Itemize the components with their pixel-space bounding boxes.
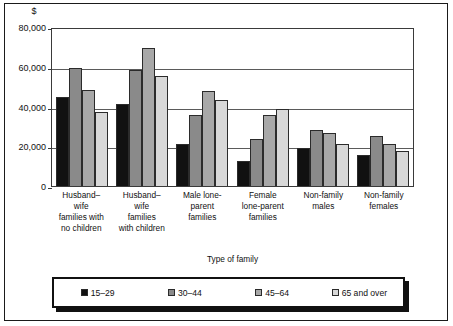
- bar[interactable]: [215, 100, 228, 186]
- bar-group: [233, 29, 293, 186]
- category-label-line: no children: [52, 223, 111, 234]
- legend-swatch-icon: [81, 289, 88, 296]
- x-axis-category-label: Husband–wifefamilies withno children: [51, 190, 112, 234]
- x-axis-category-label: Non-familymales: [293, 190, 354, 234]
- bar-group: [353, 29, 413, 186]
- legend-swatch-icon: [255, 289, 262, 296]
- legend-item[interactable]: 15–29: [54, 288, 141, 298]
- category-label-line: families: [173, 212, 232, 223]
- category-label-line: females: [355, 201, 414, 212]
- bar[interactable]: [263, 115, 276, 186]
- category-label-line: wife: [52, 201, 111, 212]
- bar[interactable]: [357, 155, 370, 186]
- legend-item[interactable]: 45–64: [229, 288, 316, 298]
- category-label-line: families: [234, 212, 293, 223]
- bar[interactable]: [383, 144, 396, 186]
- legend-swatch-icon: [168, 289, 175, 296]
- bar[interactable]: [142, 48, 155, 186]
- x-axis-category-label: Non-familyfemales: [354, 190, 415, 234]
- category-label-line: families with: [52, 212, 111, 223]
- y-axis-tick-label: 80,000: [2, 23, 46, 33]
- y-axis-tick-label: 40,000: [2, 103, 46, 113]
- bar-group: [172, 29, 232, 186]
- category-label-line: males: [294, 201, 353, 212]
- legend-label: 65 and over: [342, 288, 387, 298]
- chart-legend: 15–2930–4445–6465 and over: [52, 277, 405, 308]
- legend-swatch-icon: [332, 289, 339, 296]
- bar-group: [52, 29, 112, 186]
- y-axis-tick-label: 20,000: [2, 142, 46, 152]
- bar[interactable]: [69, 68, 82, 186]
- bar[interactable]: [396, 151, 409, 186]
- category-label-line: Husband–: [113, 190, 172, 201]
- legend-label: 45–64: [265, 288, 289, 298]
- x-axis-category-label: Male lone-parentfamilies: [172, 190, 233, 234]
- category-label-line: Non-family: [355, 190, 414, 201]
- x-axis-category-label: Husband–wifefamilieswith children: [112, 190, 173, 234]
- bar[interactable]: [56, 97, 69, 186]
- bar[interactable]: [155, 76, 168, 186]
- bar[interactable]: [370, 136, 383, 186]
- category-label-line: Non-family: [294, 190, 353, 201]
- category-label-line: parent: [173, 201, 232, 212]
- y-axis-tick-label: 0: [2, 182, 46, 192]
- category-label-line: wife: [113, 201, 172, 212]
- legend-label: 30–44: [178, 288, 202, 298]
- category-label-line: with children: [113, 223, 172, 234]
- y-axis-unit-label: $: [16, 6, 52, 16]
- legend-item[interactable]: 65 and over: [316, 288, 403, 298]
- bar-group: [112, 29, 172, 186]
- bar-groups: [52, 29, 413, 186]
- bar[interactable]: [176, 144, 189, 186]
- bar[interactable]: [129, 70, 142, 186]
- bar[interactable]: [189, 115, 202, 186]
- bar[interactable]: [276, 109, 289, 186]
- bar[interactable]: [116, 104, 129, 186]
- category-label-line: Husband–: [52, 190, 111, 201]
- x-axis-category-labels: Husband–wifefamilies withno childrenHusb…: [51, 190, 414, 234]
- x-axis-title: Type of family: [51, 254, 414, 264]
- bar[interactable]: [95, 112, 108, 186]
- chart-figure: $ Husband–wifefamilies withno childrenHu…: [0, 0, 453, 326]
- bar[interactable]: [202, 91, 215, 186]
- legend-item[interactable]: 30–44: [141, 288, 228, 298]
- legend-label: 15–29: [91, 288, 115, 298]
- category-label-line: lone-parent: [234, 201, 293, 212]
- category-label-line: families: [113, 212, 172, 223]
- bar[interactable]: [323, 133, 336, 186]
- bar[interactable]: [82, 90, 95, 186]
- category-label-line: Female: [234, 190, 293, 201]
- bar[interactable]: [336, 144, 349, 186]
- bar[interactable]: [310, 130, 323, 186]
- y-axis-tick-mark: [48, 188, 52, 189]
- x-axis-category-label: Femalelone-parentfamilies: [233, 190, 294, 234]
- category-label-line: Male lone-: [173, 190, 232, 201]
- bar-group: [293, 29, 353, 186]
- plot-area: [51, 28, 414, 187]
- bar[interactable]: [250, 139, 263, 186]
- bar[interactable]: [297, 148, 310, 186]
- bar[interactable]: [237, 161, 250, 186]
- y-axis-tick-label: 60,000: [2, 63, 46, 73]
